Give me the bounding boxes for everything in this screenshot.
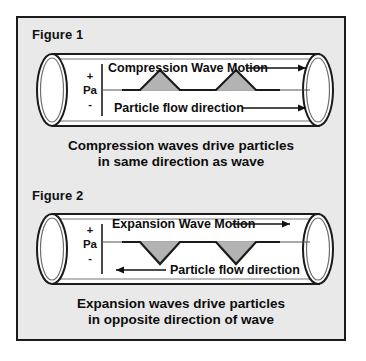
figure-1-label: Figure 1 xyxy=(32,27,83,42)
figure-1-tube: + Pa - Compression Wave Motion Particle … xyxy=(18,48,344,132)
axis-negative-label: - xyxy=(88,252,92,264)
axis-negative-label: - xyxy=(88,98,92,110)
cylinder-left-cap xyxy=(37,214,67,284)
axis-unit-label: Pa xyxy=(83,84,98,96)
figure-2-caption: Expansion waves drive particles in oppos… xyxy=(18,296,344,328)
cylinder-left-cap xyxy=(37,54,67,126)
figure-2-block: Figure 2 xyxy=(18,186,344,341)
particle-flow-label: Particle flow direction xyxy=(114,101,244,115)
figure-1-block: Figure 1 xyxy=(18,22,344,182)
wave-motion-label: Compression Wave Motion xyxy=(108,61,268,75)
figure-2-caption-line-2: in opposite direction of wave xyxy=(18,312,344,328)
diagram-panel: Figure 1 xyxy=(16,16,346,341)
particle-flow-label: Particle flow direction xyxy=(170,263,300,277)
figure-2-svg: + Pa - Expansion Wave Motion Particle fl… xyxy=(18,208,348,290)
figure-2-tube: + Pa - Expansion Wave Motion Particle fl… xyxy=(18,208,344,290)
axis-positive-label: + xyxy=(87,224,93,236)
figure-2-label: Figure 2 xyxy=(32,188,83,203)
axis-unit-label: Pa xyxy=(83,238,98,250)
figure-1-caption-line-1: Compression waves drive particles xyxy=(18,138,344,154)
figure-1-caption: Compression waves drive particles in sam… xyxy=(18,138,344,170)
cylinder-right-cap xyxy=(303,214,333,284)
axis-positive-label: + xyxy=(87,70,93,82)
figure-1-svg: + Pa - Compression Wave Motion Particle … xyxy=(18,48,348,132)
figure-1-caption-line-2: in same direction as wave xyxy=(18,154,344,170)
figure-2-caption-line-1: Expansion waves drive particles xyxy=(18,296,344,312)
